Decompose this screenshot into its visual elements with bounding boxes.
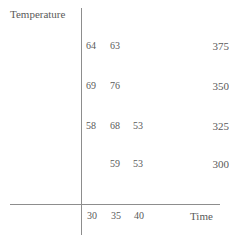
data-cell: 58 [86,120,108,132]
data-cell: 68 [110,120,132,132]
data-cell: 76 [110,80,132,92]
x-tick-label-40: 40 [134,210,156,222]
x-axis-title: Time [190,210,213,223]
data-cell: 53 [133,120,155,132]
data-cell: 59 [110,158,132,170]
data-cell: 69 [86,80,108,92]
y-tick-label-325: 325 [151,120,229,132]
y-axis-line [81,8,82,235]
y-tick-label-300: 300 [151,158,229,170]
data-cell: 63 [110,40,132,52]
x-axis-line [10,204,220,205]
data-cell: 53 [133,158,155,170]
y-tick-label-375: 375 [151,40,229,52]
y-tick-label-350: 350 [151,80,229,92]
y-axis-title: Temperature [10,8,65,21]
temperature-time-plot: Temperature Time 375 350 325 300 30 35 4… [0,0,229,239]
data-cell: 64 [86,40,108,52]
x-tick-label-30: 30 [87,210,109,222]
x-tick-label-35: 35 [111,210,133,222]
